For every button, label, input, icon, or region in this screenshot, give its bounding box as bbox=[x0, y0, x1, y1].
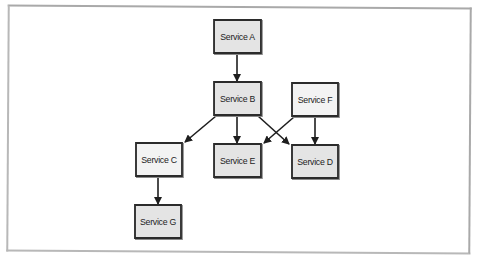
node-service-g: Service G bbox=[134, 204, 182, 239]
node-label: Service A bbox=[220, 31, 254, 42]
node-label: Service B bbox=[220, 93, 255, 104]
node-label: Service G bbox=[140, 216, 176, 227]
node-label: Service D bbox=[297, 156, 332, 167]
edge-arrow bbox=[185, 116, 216, 142]
edge-arrow bbox=[264, 117, 294, 143]
node-service-f: Service F bbox=[291, 82, 339, 117]
node-label: Service C bbox=[141, 154, 176, 165]
node-label: Service F bbox=[298, 94, 332, 105]
node-service-c: Service C bbox=[135, 142, 183, 177]
node-service-b: Service B bbox=[213, 81, 262, 116]
node-label: Service E bbox=[220, 155, 255, 166]
node-service-d: Service D bbox=[291, 144, 339, 179]
edge-arrow bbox=[258, 116, 289, 144]
node-service-e: Service E bbox=[213, 143, 262, 178]
node-service-a: Service A bbox=[213, 19, 262, 54]
